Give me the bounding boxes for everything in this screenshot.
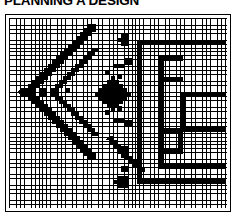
chart-panel <box>5 14 231 212</box>
figure-title: PLANNING A DESIGN <box>4 0 139 7</box>
greek-key-maze-motif <box>9 18 227 208</box>
graph-paper-grid <box>9 18 227 208</box>
